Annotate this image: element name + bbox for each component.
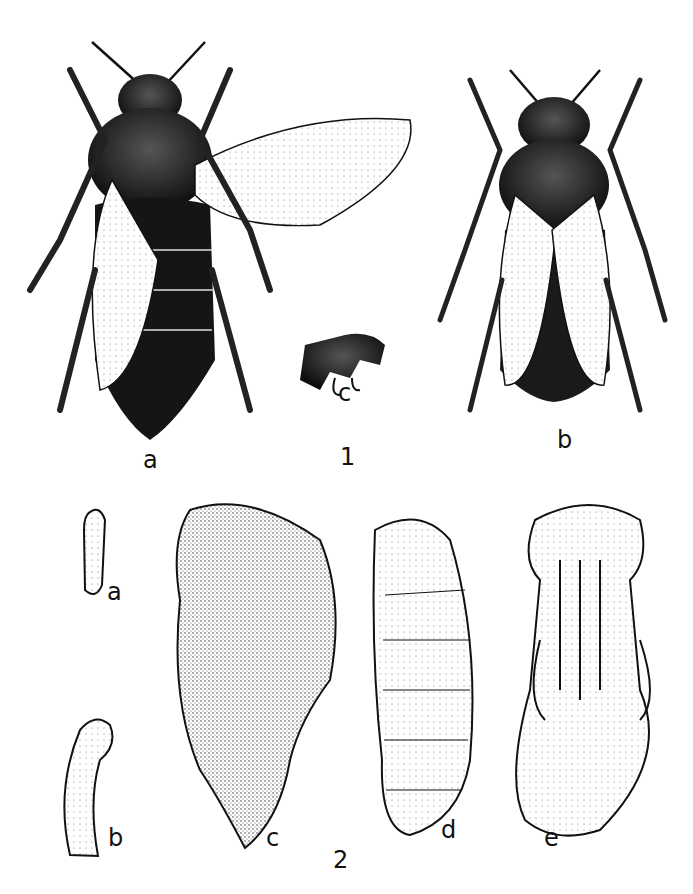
young-larva-drawing — [64, 720, 112, 856]
mature-larva-drawing — [177, 504, 336, 848]
panel-label-2a: a — [107, 580, 122, 604]
panel-label-2b: b — [108, 826, 123, 850]
egg-drawing — [84, 510, 105, 594]
figure-number-1: 1 — [340, 445, 355, 469]
panel-label-2d: d — [441, 818, 456, 842]
panel-label-1b: b — [557, 428, 572, 452]
queen-bee-drawing — [30, 42, 411, 440]
prepupa-drawing — [374, 520, 473, 835]
panel-label-1a: a — [143, 448, 158, 472]
figure-number-2: 2 — [333, 848, 348, 872]
panel-label-2e: e — [544, 826, 559, 850]
panel-label-1c: c — [338, 381, 351, 405]
panel-label-2c: c — [266, 826, 279, 850]
worker-bee-drawing — [440, 70, 665, 410]
pupa-drawing — [516, 505, 650, 836]
